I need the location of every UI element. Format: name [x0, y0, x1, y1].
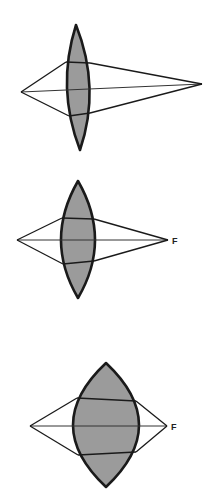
lens-diagram: F F [0, 0, 209, 499]
focal-point-label: F [172, 236, 178, 246]
refracted-ray-top-inside [62, 218, 94, 219]
focal-point-label: F [171, 422, 177, 432]
refracted-ray-top-inside [66, 62, 90, 63]
